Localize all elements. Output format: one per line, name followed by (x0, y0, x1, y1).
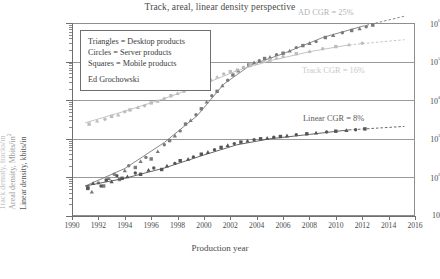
y-tick-minor (69, 27, 73, 28)
y-tick-minor (69, 159, 73, 160)
legend-item-squares: Squares = Mobile products (88, 58, 204, 69)
y-tick-minor (69, 65, 73, 66)
x-tick-label: 2014 (381, 221, 396, 230)
y-tick-minor (69, 50, 73, 51)
y-tick-minor (69, 70, 73, 71)
annotation-track-cgr: Track CGR = 16% (302, 66, 365, 75)
y-tick-minor (69, 189, 73, 190)
y-tick-label: 10 (376, 212, 440, 220)
y-axis-title-areal: Areal density, Mbits/in2 (7, 134, 17, 210)
y-axis-title-linear: Linear density, kbits/in (20, 137, 28, 210)
y-axis-titles: Track density, tracks/in Areal density, … (4, 60, 38, 210)
y-tick-minor (69, 38, 73, 39)
y-tick-minor (69, 141, 73, 142)
y-tick-label: 10⁶ (376, 19, 440, 29)
y-axis-line (72, 23, 73, 216)
y-tick-minor (69, 104, 73, 105)
x-tick-label: 2002 (223, 221, 238, 230)
x-tick (72, 216, 73, 220)
x-tick (257, 216, 258, 220)
x-tick (362, 216, 363, 220)
x-tick (178, 216, 179, 220)
y-tick-minor (69, 183, 73, 184)
gridline (72, 177, 415, 178)
annotation-linear-cgr: Linear CGR = 8% (303, 114, 364, 123)
y-tick-minor (69, 68, 73, 69)
annotation-areal-cgr: AD CGR = 25% (298, 8, 354, 17)
x-tick (336, 216, 337, 220)
x-tick-label: 1994 (117, 221, 132, 230)
y-tick-minor (69, 82, 73, 83)
x-tick (415, 216, 416, 220)
y-tick-minor (69, 204, 73, 205)
y-tick-minor (69, 29, 73, 30)
x-tick-label: 2004 (249, 221, 264, 230)
y-axis-title-areal-sup: 2 (6, 134, 12, 137)
y-tick-minor (69, 102, 73, 103)
x-tick-label: 1996 (144, 221, 159, 230)
x-axis-title: Production year (0, 243, 440, 253)
chart-root: Track, areal, linear density perspective… (0, 0, 440, 279)
y-tick-label: 10⁴ (376, 96, 440, 106)
y-tick-minor (69, 120, 73, 121)
y-tick-minor (69, 154, 73, 155)
x-tick (389, 216, 390, 220)
x-tick-label: 2016 (407, 221, 422, 230)
y-tick-minor (69, 25, 73, 26)
x-tick-label: 2006 (275, 221, 290, 230)
x-tick (204, 216, 205, 220)
y-tick-minor (69, 63, 73, 64)
x-tick-label: 1998 (170, 221, 185, 230)
y-axis-title-linear-text: Linear density, kbits/in (19, 137, 28, 210)
x-tick (151, 216, 152, 220)
y-tick-minor (69, 35, 73, 36)
y-tick-minor (69, 166, 73, 167)
y-axis-title-areal-text: Areal density, Mbits/in (8, 137, 17, 210)
y-tick-minor (69, 77, 73, 78)
y-tick-minor (69, 193, 73, 194)
y-tick-minor (69, 179, 73, 180)
y-tick-minor (69, 32, 73, 33)
y-axis-title-track-text: Track density, tracks/in (0, 135, 7, 210)
legend-item-triangles: Triangles = Desktop products (88, 36, 204, 47)
x-tick-label: 1990 (64, 221, 79, 230)
y-tick-minor (69, 150, 73, 151)
y-tick-minor (69, 186, 73, 187)
y-tick-label: 10⁵ (376, 57, 440, 67)
y-tick-minor (69, 109, 73, 110)
x-tick-label: 1992 (91, 221, 106, 230)
x-axis-line (72, 216, 415, 217)
y-tick-minor (69, 116, 73, 117)
x-tick (230, 216, 231, 220)
y-tick-label: 10³ (376, 134, 440, 144)
y-tick-minor (69, 198, 73, 199)
x-tick-label: 2000 (196, 221, 211, 230)
y-tick-minor (69, 112, 73, 113)
y-tick-minor (69, 147, 73, 148)
y-tick-minor (69, 145, 73, 146)
y-tick-minor (69, 181, 73, 182)
y-tick-minor (69, 43, 73, 44)
legend-box: Triangles = Desktop products Circles = S… (80, 30, 211, 91)
y-tick-label: 10² (376, 173, 440, 183)
x-tick-label: 2010 (328, 221, 343, 230)
x-tick-label: 2012 (355, 221, 370, 230)
y-tick-minor (69, 89, 73, 90)
x-tick (309, 216, 310, 220)
gridline (72, 100, 415, 101)
x-tick (98, 216, 99, 220)
x-tick (283, 216, 284, 220)
legend-author: Ed Grochowski (88, 74, 204, 85)
chart-title: Track, areal, linear density perspective (0, 2, 440, 12)
x-tick (125, 216, 126, 220)
y-tick-minor (69, 73, 73, 74)
gridline (72, 139, 415, 140)
y-axis-title-track: Track density, tracks/in (0, 135, 7, 210)
legend-item-circles: Circles = Server products (88, 47, 204, 58)
y-tick-minor (69, 143, 73, 144)
y-tick-minor (69, 127, 73, 128)
y-tick-minor (69, 106, 73, 107)
x-tick-label: 2008 (302, 221, 317, 230)
